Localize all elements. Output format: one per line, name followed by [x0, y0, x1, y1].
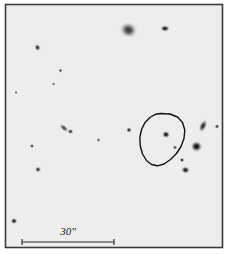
sky-object-star-mid-centre — [126, 127, 132, 133]
sky-object-star-north-east — [160, 25, 170, 32]
sky-object-faint-star-left-c — [14, 91, 18, 95]
scale-bar-label: 30" — [59, 225, 76, 237]
sky-object-star-south-west-corner — [10, 218, 17, 225]
finding-chart-figure: 30" — [0, 0, 229, 254]
sky-object-faint-star-in-contour — [173, 145, 178, 150]
sky-object-star-far-left-mid — [30, 144, 35, 149]
sky-object-faint-star-left-a — [58, 68, 63, 73]
sky-object-star-left-lower — [34, 166, 41, 172]
sky-object-faint-star-left-b — [52, 82, 56, 86]
finding-chart-canvas: 30" — [0, 0, 229, 254]
sky-object-star-south-east-a — [179, 157, 184, 162]
sky-background — [6, 5, 223, 248]
sky-object-faint-star-mid-a — [96, 138, 100, 142]
sky-object-star-mid-left — [67, 129, 73, 135]
sky-object-star-east-edge — [214, 124, 219, 129]
sky-object-bright-star-east — [190, 140, 203, 152]
